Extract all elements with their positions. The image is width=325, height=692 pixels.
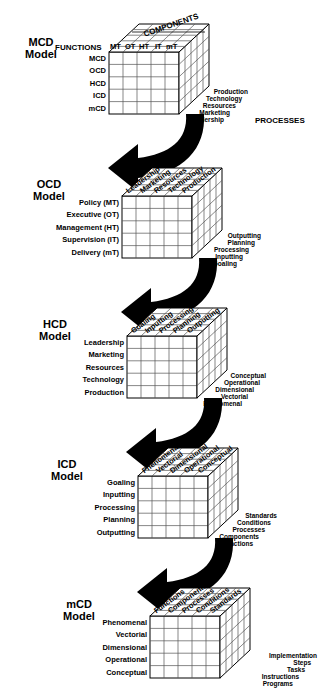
row-label-ocd-4: Delivery (mT) bbox=[24, 249, 119, 257]
row-label-icd-1: Inputting bbox=[55, 491, 135, 499]
row-label-mcd2-1: Vectorial bbox=[62, 631, 147, 639]
row-label-hcd-3: Technology bbox=[44, 376, 124, 384]
depth-label-icd-0: Standards bbox=[205, 512, 277, 519]
depth-label-ocd-0: Outputting bbox=[189, 232, 261, 239]
depth-label-mcd-2: Resources bbox=[164, 102, 236, 109]
depth-label-hcd-4: Phenomenal bbox=[170, 400, 242, 407]
row-label-mcd-4: mCD bbox=[38, 105, 106, 113]
depth-label-mcd2-1: Steps bbox=[216, 659, 311, 666]
row-label-mcd-0: MCD bbox=[38, 55, 106, 63]
depth-label-mcd-1: Technology bbox=[170, 95, 242, 102]
depth-label-hcd-2: Dimensional bbox=[182, 386, 254, 393]
depth-label-icd-2: Processes bbox=[193, 526, 265, 533]
depth-label-icd-4: Functions bbox=[181, 540, 253, 547]
depth-label-mcd-3: Marketing bbox=[158, 109, 230, 116]
axis-label-processes: PROCESSES bbox=[255, 116, 305, 125]
depth-label-mcd2-0: Implementation bbox=[222, 652, 317, 659]
row-label-mcd2-0: Phenomenal bbox=[62, 619, 147, 627]
axis-label-functions: FUNCTIONS bbox=[55, 43, 102, 52]
row-label-icd-0: Goaling bbox=[55, 479, 135, 487]
col-label-mcd-2: HT bbox=[139, 43, 149, 51]
col-label-mcd-0: MT bbox=[110, 43, 121, 51]
depth-label-mcd2-3: Instructions bbox=[204, 673, 299, 680]
row-label-ocd-2: Management (HT) bbox=[24, 224, 119, 232]
row-label-hcd-4: Production bbox=[44, 389, 124, 397]
row-label-mcd2-2: Dimensional bbox=[62, 644, 147, 652]
depth-label-icd-3: Components bbox=[187, 533, 259, 540]
row-label-mcd2-3: Operational bbox=[62, 656, 147, 664]
row-label-mcd2-4: Conceptual bbox=[62, 669, 147, 677]
depth-label-ocd-4: Goaling bbox=[165, 260, 237, 267]
depth-label-mcd2-4: Programs bbox=[198, 680, 293, 687]
row-label-mcd-1: OCD bbox=[38, 67, 106, 75]
row-label-icd-3: Planning bbox=[55, 516, 135, 524]
depth-label-ocd-3: Inputting bbox=[171, 253, 243, 260]
row-label-ocd-0: Policy (MT) bbox=[24, 199, 119, 207]
depth-label-mcd-4: Leadership bbox=[152, 116, 224, 123]
row-label-icd-4: Outputting bbox=[55, 529, 135, 537]
depth-label-mcd-0: Production bbox=[176, 88, 248, 95]
depth-label-hcd-3: Vectorial bbox=[176, 393, 248, 400]
depth-label-ocd-1: Planning bbox=[183, 239, 255, 246]
row-label-icd-2: Processing bbox=[55, 504, 135, 512]
row-label-mcd-2: HCD bbox=[38, 80, 106, 88]
row-label-ocd-3: Supervision (IT) bbox=[24, 236, 119, 244]
col-label-mcd-3: IT bbox=[155, 43, 162, 51]
row-label-ocd-1: Executive (OT) bbox=[24, 211, 119, 219]
depth-label-hcd-0: Conceptual bbox=[194, 372, 266, 379]
col-label-mcd-4: mT bbox=[166, 43, 177, 51]
depth-label-icd-1: Conditions bbox=[199, 519, 271, 526]
row-label-hcd-2: Resources bbox=[44, 364, 124, 372]
row-label-hcd-1: Marketing bbox=[44, 351, 124, 359]
col-label-mcd-1: OT bbox=[125, 43, 135, 51]
diagram-canvas: MCD Model FUNCTIONS COMPONENTS PROCESSES… bbox=[0, 0, 325, 692]
depth-label-hcd-1: Operational bbox=[188, 379, 260, 386]
depth-label-mcd2-2: Tasks bbox=[210, 666, 305, 673]
row-label-mcd-3: ICD bbox=[38, 92, 106, 100]
row-label-hcd-0: Leadership bbox=[44, 339, 124, 347]
depth-label-ocd-2: Processing bbox=[177, 246, 249, 253]
